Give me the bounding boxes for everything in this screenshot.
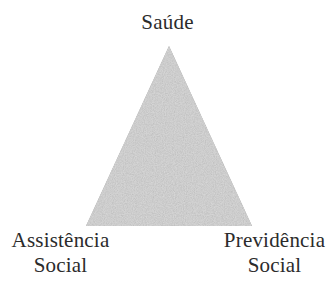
vertex-label-assistencia-line1: Assistência <box>0 228 121 253</box>
vertex-label-saude-text: Saúde <box>0 10 335 35</box>
vertex-label-previdencia-line1: Previdência <box>214 228 335 253</box>
vertex-label-assistencia-line2: Social <box>0 253 121 278</box>
vertex-label-previdencia-line2: Social <box>214 253 335 278</box>
triangle-shape <box>86 46 252 226</box>
vertex-label-previdencia-social: Previdência Social <box>214 228 335 278</box>
vertex-label-assistencia-social: Assistência Social <box>0 228 121 278</box>
vertex-label-saude: Saúde <box>0 10 335 35</box>
seguridade-social-triangle-figure: Saúde Assistência Social Previdência Soc… <box>0 0 335 299</box>
